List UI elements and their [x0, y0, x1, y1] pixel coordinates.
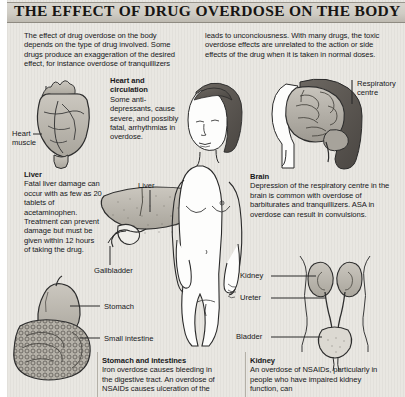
bladder-label: Bladder: [236, 332, 262, 341]
brain-body: Depression of the respiratory centre in …: [250, 181, 389, 218]
intro-column-left: The effect of drug overdose on the body …: [24, 31, 184, 69]
stomach-section: Stomach and intestines Iron overdose cau…: [102, 356, 224, 394]
stomach-body: Iron overdose causes bleeding in the dig…: [102, 365, 215, 393]
brain-section: Brain Depression of the respiratory cent…: [250, 172, 396, 219]
kidney-section: Kidney An overdose of NSAIDs, particular…: [250, 356, 390, 394]
respiratory-centre-label-line2: centre: [357, 88, 378, 97]
liver-section: Liver Fatal liver damage can occur with …: [24, 170, 102, 255]
stomach-label: Stomach: [104, 302, 134, 311]
intro-column-right: leads to unconciousness. With many drugs…: [205, 31, 380, 59]
column-divider-left: [97, 352, 98, 397]
heart-heading: Heart and circulation: [110, 76, 180, 95]
brain-heading: Brain: [250, 172, 396, 181]
small-intestine-label: Small intestine: [104, 334, 153, 343]
liver-body: Fatal liver damage can occur with as few…: [24, 179, 102, 254]
ureter-label: Ureter: [240, 293, 261, 302]
stomach-heading: Stomach and intestines: [102, 356, 224, 365]
column-divider-right: [245, 352, 246, 397]
respiratory-centre-label-line1: Respiratory: [357, 79, 396, 88]
heart-body: Some anti-depressants, cause severe, and…: [110, 95, 178, 142]
heart-muscle-label-line2: muscle: [12, 138, 36, 147]
kidney-heading: Kidney: [250, 356, 390, 365]
page-title: THE EFFECT OF DRUG OVERDOSE ON THE BODY: [14, 2, 401, 20]
liver-organ-label: Liver: [138, 181, 154, 190]
kidney-body: An overdose of NSAIDs, particularly in p…: [250, 365, 377, 393]
heart-muscle-label-line1: Heart: [12, 129, 31, 138]
liver-heading: Liver: [24, 170, 102, 179]
kidney-label: Kidney: [240, 271, 263, 280]
infographic-page: THE EFFECT OF DRUG OVERDOSE ON THE BODY …: [0, 0, 405, 397]
heart-section: Heart and circulation Some anti-depressa…: [110, 76, 180, 142]
gallbladder-label: Gallbladder: [94, 266, 133, 275]
